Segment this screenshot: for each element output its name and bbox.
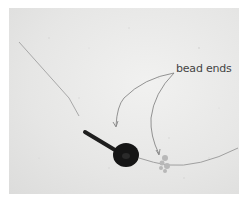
- crimp-tube: [85, 132, 115, 150]
- wire-right: [139, 148, 238, 165]
- annotation-arrow-2: [151, 73, 174, 154]
- wire-left: [19, 42, 79, 116]
- annotation-arrow-1: [116, 73, 174, 126]
- photo: [9, 8, 239, 194]
- bead-illustration: [9, 8, 239, 194]
- frayed-end: [159, 155, 170, 173]
- annotation-label: bead ends: [176, 62, 232, 75]
